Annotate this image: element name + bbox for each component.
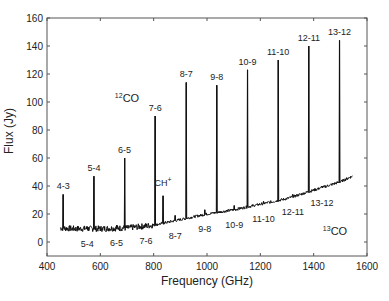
x-axis-label: Frequency (GHz) (161, 274, 253, 288)
y-tick-label: 160 (26, 13, 43, 24)
spectrum-chart: 020406080100120140160 400600800100012001… (0, 0, 389, 301)
co12-line-label: 11-10 (267, 47, 289, 57)
co13-label: 13CO (323, 225, 348, 237)
x-tick-label: 1600 (356, 261, 379, 272)
y-axis-label: Flux (Jy) (2, 108, 16, 154)
co13-line-label: 12-11 (282, 207, 304, 217)
x-tick-label: 1400 (303, 261, 326, 272)
co13-line-label: 6-5 (110, 238, 123, 248)
x-tick-label: 600 (92, 261, 109, 272)
y-tick-label: 80 (32, 125, 44, 136)
co13-line-label: 9-8 (198, 224, 211, 234)
y-tick-label: 40 (32, 181, 44, 192)
co12-line-label: 12-11 (298, 33, 320, 43)
co13-line-label: 13-12 (310, 198, 333, 208)
ch-plus-label: CH+ (154, 176, 171, 188)
co13-line-label: 10-9 (225, 220, 243, 230)
co12-line-label: 6-5 (118, 145, 131, 155)
y-tick-label: 60 (32, 153, 44, 164)
x-tick-label: 800 (145, 261, 162, 272)
co12-label: 12CO (115, 92, 140, 104)
co12-line-label: 9-8 (210, 72, 223, 82)
x-tick-label: 1200 (249, 261, 272, 272)
plot-frame (47, 18, 367, 256)
co12-line-label: 10-9 (239, 57, 257, 67)
y-axis: 020406080100120140160 (26, 13, 367, 248)
co13-line-label: 8-7 (169, 231, 182, 241)
co12-line-label: 5-4 (87, 163, 100, 173)
y-tick-label: 100 (26, 97, 43, 108)
co12-line-label: 7-6 (149, 103, 162, 113)
x-tick-label: 400 (39, 261, 56, 272)
co12-line-label: 8-7 (180, 69, 193, 79)
y-tick-label: 140 (26, 41, 43, 52)
y-tick-label: 0 (37, 237, 43, 248)
y-tick-label: 120 (26, 69, 43, 80)
co13-line-label: 7-6 (139, 236, 152, 246)
y-tick-label: 20 (32, 209, 44, 220)
co12-line-label: 13-12 (328, 27, 351, 37)
co13-line-label: 5-4 (81, 239, 94, 249)
spectrum-trace (60, 40, 352, 231)
co12-line-label: 4-3 (57, 181, 70, 191)
x-tick-label: 1000 (196, 261, 219, 272)
co13-line-label: 11-10 (252, 214, 274, 224)
plot-border (47, 18, 367, 256)
